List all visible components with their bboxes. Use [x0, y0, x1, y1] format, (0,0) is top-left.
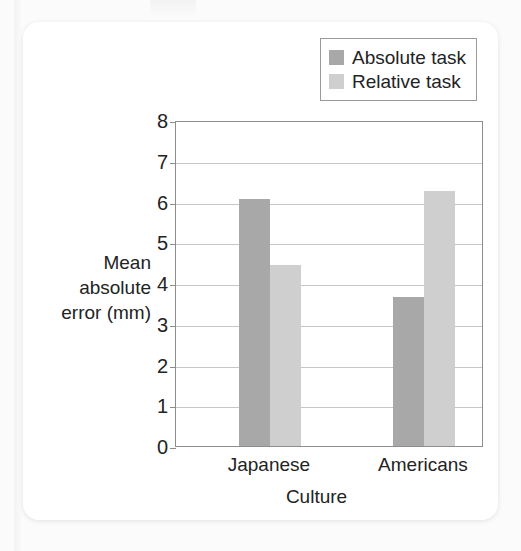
- y-tick-mark-2: [170, 367, 176, 368]
- y-tick-mark-0: [170, 448, 176, 449]
- legend-item-relative-task: Relative task: [329, 69, 466, 93]
- bar-americans-relative-task: [424, 191, 455, 446]
- y-tick-mark-5: [170, 244, 176, 245]
- figure-card: Absolute task Relative task Mean absolut…: [23, 22, 498, 520]
- y-tick-label-7: 7: [128, 152, 168, 172]
- x-axis-title-text: Culture: [286, 486, 347, 507]
- x-tick-label-americans: Americans: [343, 454, 503, 476]
- x-tick-label-japanese: Japanese: [189, 454, 349, 476]
- chart-legend: Absolute task Relative task: [320, 38, 477, 101]
- y-tick-label-0: 0: [128, 437, 168, 457]
- y-tick-mark-3: [170, 326, 176, 327]
- y-tick-mark-4: [170, 285, 176, 286]
- legend-label-relative-task: Relative task: [352, 72, 461, 91]
- x-axis-title: Culture: [23, 486, 498, 508]
- y-tick-label-8: 8: [128, 111, 168, 131]
- page-gutter-top: [150, 0, 196, 20]
- y-tick-label-1: 1: [128, 396, 168, 416]
- gridline-7: [176, 163, 482, 164]
- legend-swatch-absolute-task: [329, 50, 344, 65]
- y-tick-label-4: 4: [128, 274, 168, 294]
- y-tick-mark-6: [170, 204, 176, 205]
- y-tick-label-5: 5: [128, 233, 168, 253]
- bar-japanese-absolute-task: [239, 199, 270, 446]
- bar-chart-figure: Absolute task Relative task Mean absolut…: [23, 22, 498, 520]
- y-tick-mark-7: [170, 163, 176, 164]
- bar-japanese-relative-task: [270, 265, 301, 446]
- y-tick-label-6: 6: [128, 193, 168, 213]
- y-tick-mark-8: [170, 122, 176, 123]
- y-axis-title-line-1: Mean: [23, 250, 151, 275]
- plot-area: 876543210: [175, 121, 483, 447]
- legend-swatch-relative-task: [329, 74, 344, 89]
- y-tick-label-2: 2: [128, 356, 168, 376]
- y-tick-mark-1: [170, 407, 176, 408]
- legend-item-absolute-task: Absolute task: [329, 45, 466, 69]
- bar-americans-absolute-task: [393, 297, 424, 446]
- legend-label-absolute-task: Absolute task: [352, 48, 466, 67]
- y-tick-label-3: 3: [128, 315, 168, 335]
